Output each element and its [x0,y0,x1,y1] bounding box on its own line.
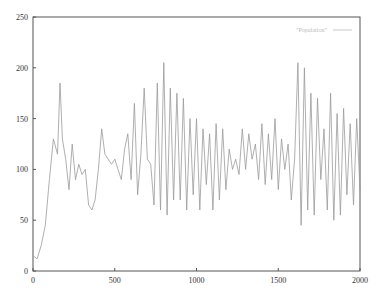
x-tick-label: 2000 [352,276,368,285]
plot-frame [33,17,360,271]
y-tick-label: 0 [24,267,28,276]
y-tick-label: 250 [16,13,28,22]
x-tick-label: 500 [109,276,121,285]
legend-label: "Population" [296,27,327,33]
y-tick-label: 150 [16,115,28,124]
plot-area [33,17,360,271]
chart: 050100150200250 0500100015002000 "Popula… [0,0,384,302]
x-tick-label: 1000 [189,276,205,285]
y-tick-label: 50 [20,216,28,225]
x-tick-label: 1500 [270,276,286,285]
x-tick-label: 0 [31,276,35,285]
y-tick-label: 200 [16,64,28,73]
y-tick-label: 100 [16,165,28,174]
